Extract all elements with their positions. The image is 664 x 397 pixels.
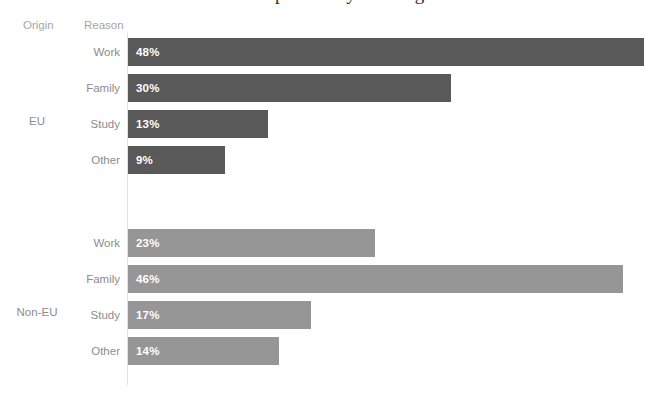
reason-label-non-eu-work: Work (60, 237, 120, 249)
bar-non-eu-family[interactable]: 46% (128, 265, 623, 293)
reason-label-non-eu-other: Other (60, 345, 120, 357)
bar-value-non-eu-other: 14% (136, 345, 160, 357)
bar-value-eu-study: 13% (136, 118, 160, 130)
bar-non-eu-work[interactable]: 23% (128, 229, 375, 257)
reason-label-eu-family: Family (60, 82, 120, 94)
reason-label-non-eu-family: Family (60, 273, 120, 285)
bar-non-eu-study[interactable]: 17% (128, 301, 311, 329)
bar-value-non-eu-study: 17% (136, 309, 160, 321)
bar-eu-family[interactable]: 30% (128, 74, 451, 102)
bar-value-eu-family: 30% (136, 82, 160, 94)
bar-value-eu-other: 9% (136, 154, 153, 166)
column-header-reason: Reason (84, 19, 124, 31)
reason-label-non-eu-study: Study (60, 309, 120, 321)
bar-eu-other[interactable]: 9% (128, 146, 225, 174)
reason-label-eu-other: Other (60, 154, 120, 166)
bar-value-non-eu-family: 46% (136, 273, 160, 285)
page-title: Residence permits by reason granted (0, 0, 664, 5)
chart-title-clipped: Residence permits by reason granted (0, 0, 664, 13)
bar-value-eu-work: 48% (136, 46, 160, 58)
bar-eu-study[interactable]: 13% (128, 110, 268, 138)
reason-label-eu-work: Work (60, 46, 120, 58)
column-header-origin: Origin (23, 19, 54, 31)
chart-container: Residence permits by reason granted Orig… (0, 0, 664, 397)
bar-value-non-eu-work: 23% (136, 237, 160, 249)
bar-non-eu-other[interactable]: 14% (128, 337, 279, 365)
reason-label-eu-study: Study (60, 118, 120, 130)
bar-eu-work[interactable]: 48% (128, 38, 644, 66)
